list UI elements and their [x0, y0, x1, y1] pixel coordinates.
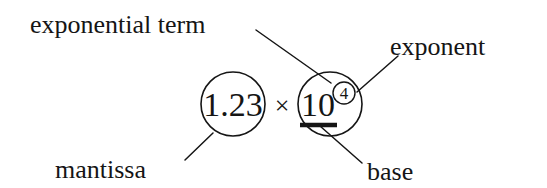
base-value: 10: [301, 86, 335, 123]
label-mantissa: mantissa: [55, 155, 146, 184]
exponent-value: 4: [340, 84, 349, 103]
mantissa-value: 1.23: [203, 86, 263, 123]
scientific-notation-diagram: 1.23 × 10 4 exponential term exponent ma…: [0, 0, 547, 188]
label-base: base: [367, 157, 413, 186]
label-exponent: exponent: [390, 32, 486, 61]
label-exponential-term: exponential term: [30, 10, 205, 39]
diagram-canvas: 1.23 × 10 4 exponential term exponent ma…: [0, 0, 547, 188]
multiplication-sign: ×: [275, 91, 290, 120]
